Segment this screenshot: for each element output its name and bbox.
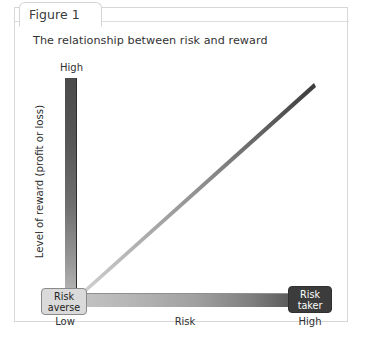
figure-tab: Figure 1 <box>19 2 102 27</box>
annotation-risk-averse: Risk averse <box>41 288 87 315</box>
x-axis-risk-bar <box>79 293 291 307</box>
x-axis-tick-high: High <box>290 316 330 327</box>
figure-subtitle: The relationship between risk and reward <box>33 34 268 47</box>
figure-frame: Figure 1 The relationship between risk a… <box>14 7 348 322</box>
annotation-risk-taker-line2: taker <box>289 301 331 312</box>
annotation-risk-averse-line2: averse <box>42 303 86 314</box>
annotation-risk-taker: Risk taker <box>288 286 332 313</box>
risk-reward-line <box>15 48 349 322</box>
x-axis-tick-low: Low <box>45 316 85 327</box>
plot-area: High Level of reward (profit or loss) Ri… <box>15 48 349 322</box>
figure-tab-label: Figure 1 <box>29 7 80 22</box>
x-axis-caption: Risk <box>165 316 205 327</box>
